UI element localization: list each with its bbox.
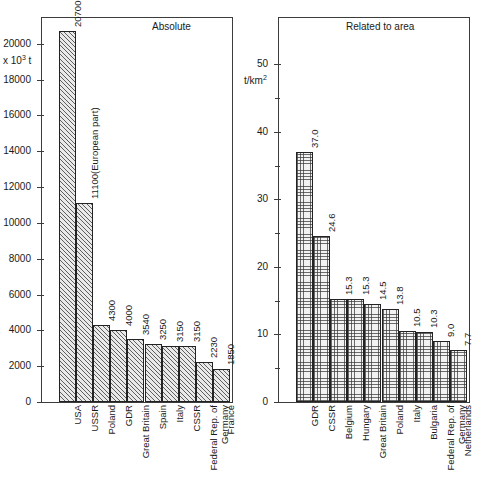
y-tick-major xyxy=(37,80,44,81)
bar xyxy=(110,330,127,402)
x-axis-category-label: GDR xyxy=(123,405,134,426)
x-axis-category-line: Hungary xyxy=(360,405,371,441)
bar-value-label: 37.0 xyxy=(309,130,320,149)
x-axis-category-label: USSR xyxy=(89,405,100,431)
bar xyxy=(296,152,313,402)
y-tick-label: 12000 xyxy=(0,181,31,192)
y-tick-major xyxy=(37,187,44,188)
x-axis-category-line: Federal Rep. of xyxy=(208,405,219,470)
y-tick-label: 6000 xyxy=(0,289,31,300)
y-axis-unit-base: x 10 xyxy=(3,55,22,66)
bar-value-label: 24.6 xyxy=(326,213,337,232)
bar-series-right: 37.024.615.315.314.513.810.510.39.07.7 xyxy=(296,17,467,402)
bar-value-label: 10.5 xyxy=(411,309,422,328)
y-tick-label: 14000 xyxy=(0,145,31,156)
bar-value-label: 2230 xyxy=(208,337,219,358)
y-tick-major xyxy=(37,295,44,296)
bar-value-label: 3150 xyxy=(174,320,185,341)
bar-value-label: 4000 xyxy=(123,305,134,326)
bar xyxy=(145,344,162,402)
y-tick-label: 20 xyxy=(242,261,268,272)
bar-series-left: 2070011100(European part)430040003540325… xyxy=(59,17,230,402)
y-tick-major xyxy=(37,151,44,152)
x-axis-category-line: Italy xyxy=(174,405,185,422)
x-axis-category-line: Great Britain xyxy=(140,405,151,458)
bar-value-label: 3150 xyxy=(191,320,202,341)
bar xyxy=(76,203,93,402)
y-tick-minor xyxy=(275,98,280,99)
y-tick-minor xyxy=(275,166,280,167)
x-axis-category-label: Belgium xyxy=(343,405,354,439)
y-tick-major xyxy=(37,259,44,260)
y-tick-label: 18000 xyxy=(0,74,31,85)
x-axis-category-line: Netherlands xyxy=(462,405,473,456)
x-axis-category-line: Spain xyxy=(157,405,168,429)
x-axis-category-line: Poland xyxy=(106,405,117,435)
chart-panel-related-to-area: Related to area t/km2 01020304050 37.024… xyxy=(242,0,484,485)
y-axis-unit-exponent: 2 xyxy=(263,74,267,81)
x-axis-category-label: Great Britain xyxy=(377,405,388,458)
bar-value-label: 7.7 xyxy=(462,333,473,346)
bar xyxy=(433,341,450,402)
x-axis-category-label: Hungary xyxy=(360,405,371,441)
y-tick-major xyxy=(274,402,281,403)
y-axis-unit-left: x 103 t xyxy=(3,54,31,66)
x-axis-category-line: France xyxy=(225,405,236,435)
bar xyxy=(93,325,110,402)
y-tick-label: 10 xyxy=(242,328,268,339)
y-tick-label: 30 xyxy=(242,193,268,204)
x-axis-category-line: CSSR xyxy=(191,405,202,431)
x-axis-category-line: USSR xyxy=(89,405,100,431)
y-tick-minor xyxy=(275,301,280,302)
y-tick-label: 40 xyxy=(242,126,268,137)
y-tick-major xyxy=(37,115,44,116)
y-tick-label: 8000 xyxy=(0,253,31,264)
bar-value-label: 3540 xyxy=(140,313,151,334)
y-tick-major xyxy=(274,267,281,268)
figure-two-bar-charts: Absolute x 103 t 02000400060008000100001… xyxy=(0,0,484,485)
y-tick-major xyxy=(37,402,44,403)
bar-value-label: 13.8 xyxy=(394,286,405,305)
y-tick-label: 0 xyxy=(0,396,31,407)
bar xyxy=(399,331,416,402)
bar xyxy=(196,362,213,402)
y-tick-major xyxy=(274,64,281,65)
x-axis-labels-right: GDRCSSRBelgiumHungaryGreat BritainPoland… xyxy=(296,405,467,485)
y-tick-major xyxy=(37,44,44,45)
y-axis-unit-suffix: t xyxy=(26,55,32,66)
x-axis-category-line: Great Britain xyxy=(377,405,388,458)
bar xyxy=(347,299,364,402)
bar xyxy=(179,346,196,402)
x-axis-category-line: GDR xyxy=(309,405,320,426)
bar-value-label: 3250 xyxy=(157,319,168,340)
x-axis-category-label: CSSR xyxy=(326,405,337,431)
y-axis-unit-right: t/km2 xyxy=(244,74,267,86)
y-tick-major xyxy=(274,334,281,335)
x-axis-category-line: Belgium xyxy=(343,405,354,439)
x-axis-category-line: GDR xyxy=(123,405,134,426)
y-tick-label: 16000 xyxy=(0,109,31,120)
bar xyxy=(59,31,76,402)
bar-value-label: 14.5 xyxy=(377,282,388,301)
bar xyxy=(162,346,179,402)
y-tick-major xyxy=(274,199,281,200)
x-axis-category-line: USA xyxy=(72,405,83,425)
x-axis-labels-left: USAUSSRPolandGDRGreat BritainSpainItalyC… xyxy=(59,405,230,485)
y-tick-label: 50 xyxy=(242,58,268,69)
chart-panel-absolute: Absolute x 103 t 02000400060008000100001… xyxy=(0,0,242,485)
x-axis-category-line: Federal Rep. of xyxy=(445,405,456,470)
y-tick-minor xyxy=(275,233,280,234)
bar xyxy=(416,332,433,402)
x-axis-category-label: France xyxy=(225,405,236,435)
y-tick-label: 20000 xyxy=(0,38,31,49)
bar-value-label: 15.3 xyxy=(360,276,371,295)
x-axis-category-line: CSSR xyxy=(326,405,337,431)
x-axis-category-label: Italy xyxy=(411,405,422,422)
y-tick-label: 0 xyxy=(242,396,268,407)
y-tick-label: 4000 xyxy=(0,324,31,335)
x-axis-category-label: Spain xyxy=(157,405,168,429)
x-axis-category-label: CSSR xyxy=(191,405,202,431)
y-tick-major xyxy=(37,330,44,331)
bar-value-label: 10.3 xyxy=(428,310,439,329)
y-tick-label: 2000 xyxy=(0,360,31,371)
